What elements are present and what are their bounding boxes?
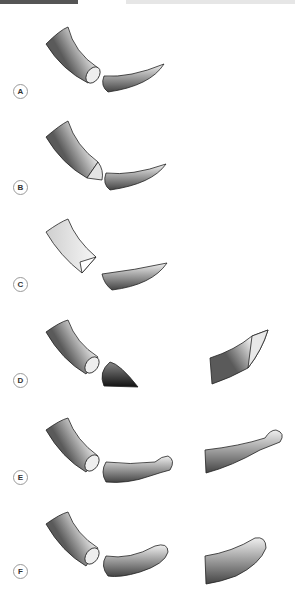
panel-e	[46, 418, 282, 482]
panel-a	[46, 27, 164, 92]
panel-label-d: D	[13, 373, 28, 388]
panel-label-e: E	[13, 470, 28, 485]
panel-d	[46, 320, 268, 387]
panel-c	[46, 219, 167, 290]
panel-label-f: F	[13, 564, 28, 579]
panel-b	[46, 121, 166, 190]
panel-label-a: A	[13, 84, 28, 99]
panel-label-c: C	[13, 277, 28, 292]
panel-label-b: B	[13, 180, 28, 195]
figure-illustration	[0, 0, 295, 596]
panel-f	[46, 512, 266, 584]
